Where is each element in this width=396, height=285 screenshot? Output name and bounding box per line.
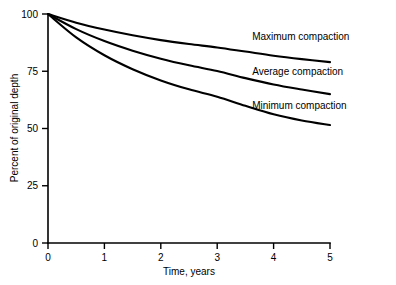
- x-tick-label-2: 2: [158, 252, 164, 263]
- x-tick-label-0: 0: [45, 252, 51, 263]
- x-tick-label-3: 3: [214, 252, 220, 263]
- y-axis-title: Percent of original depth: [9, 74, 20, 182]
- y-axis-ticks: [42, 14, 48, 243]
- compaction-chart-figure: 0255075100 012345 Maximum compactionAver…: [0, 0, 396, 285]
- y-tick-label-75: 75: [27, 66, 39, 77]
- x-axis-tick-labels: 012345: [45, 252, 333, 263]
- series-label-maximum-compaction: Maximum compaction: [252, 31, 349, 42]
- y-axis-tick-labels: 0255075100: [21, 9, 38, 249]
- y-tick-label-100: 100: [21, 9, 38, 20]
- series-label-minimum-compaction: Minimum compaction: [252, 100, 346, 111]
- x-tick-label-5: 5: [327, 252, 333, 263]
- chart-plot-area: 0255075100 012345 Maximum compactionAver…: [0, 0, 396, 285]
- series-label-average-compaction: Average compaction: [252, 66, 343, 77]
- y-tick-label-0: 0: [32, 238, 38, 249]
- x-tick-label-4: 4: [271, 252, 277, 263]
- series-inline-labels: Maximum compactionAverage compactionMini…: [252, 31, 349, 111]
- y-tick-label-50: 50: [27, 123, 39, 134]
- x-tick-label-1: 1: [102, 252, 108, 263]
- x-axis-title: Time, years: [163, 266, 215, 277]
- x-axis-ticks: [48, 243, 330, 249]
- y-tick-label-25: 25: [27, 180, 39, 191]
